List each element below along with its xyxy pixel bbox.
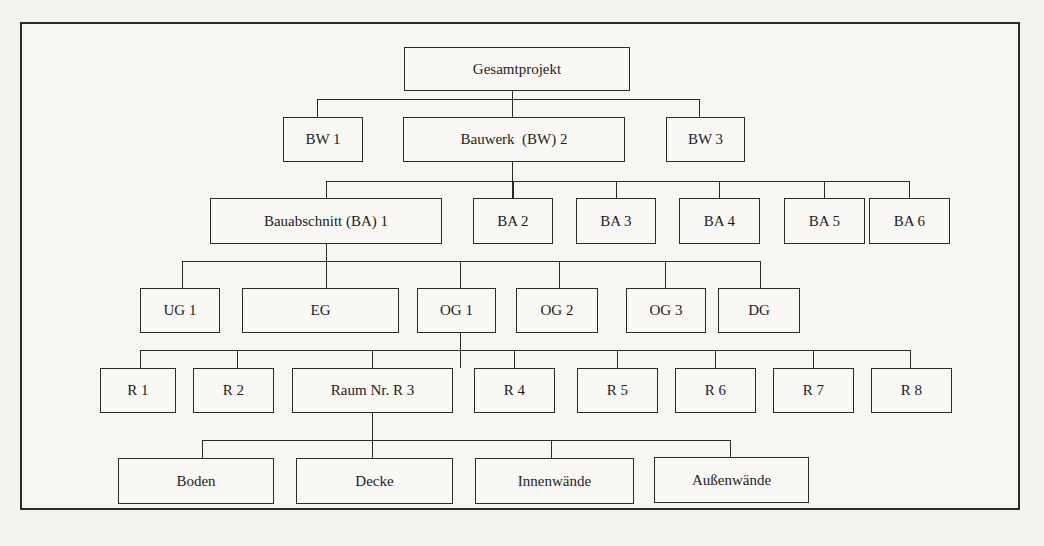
node-og-2: OG 2 — [516, 288, 598, 333]
connector — [372, 413, 373, 458]
connector — [699, 99, 700, 117]
connector — [665, 261, 666, 288]
node-og-3: OG 3 — [626, 288, 706, 333]
node-r-4: R 4 — [474, 368, 555, 413]
node-aussenwaende: Außenwände — [654, 457, 809, 503]
node-bauabschnitt-1: Bauabschnitt (BA) 1 — [210, 198, 442, 244]
connector — [372, 350, 373, 368]
node-r-7: R 7 — [773, 368, 854, 413]
connector — [760, 261, 761, 288]
node-r-5: R 5 — [577, 368, 658, 413]
connector — [202, 440, 731, 441]
node-decke: Decke — [296, 458, 453, 504]
connector — [551, 440, 552, 458]
node-bw-1: BW 1 — [283, 117, 363, 162]
connector — [559, 261, 560, 288]
connector — [202, 440, 203, 458]
node-ba-2: BA 2 — [473, 198, 553, 244]
connector — [317, 99, 318, 117]
node-r-2: R 2 — [193, 368, 274, 413]
node-ug-1: UG 1 — [140, 288, 220, 333]
connector — [513, 181, 514, 198]
connector — [182, 261, 761, 262]
connector — [237, 350, 238, 368]
node-eg: EG — [242, 288, 399, 333]
node-og-1: OG 1 — [417, 288, 496, 333]
node-ba-6: BA 6 — [869, 198, 950, 244]
connector — [182, 261, 183, 288]
node-bw-3: BW 3 — [666, 117, 745, 162]
connector — [730, 440, 731, 458]
connector — [512, 91, 513, 117]
node-innenwaende: Innenwände — [475, 458, 634, 504]
node-dg: DG — [718, 288, 800, 333]
connector — [317, 99, 700, 100]
node-ba-4: BA 4 — [679, 198, 760, 244]
connector — [326, 181, 910, 182]
connector — [715, 350, 716, 368]
connector — [616, 181, 617, 198]
connector — [326, 181, 327, 198]
connector — [617, 350, 618, 368]
diagram-frame — [20, 22, 1020, 510]
node-bauwerk-2: Bauwerk (BW) 2 — [403, 117, 625, 162]
node-r-8: R 8 — [871, 368, 952, 413]
connector — [910, 350, 911, 368]
connector — [326, 244, 327, 288]
connector — [813, 350, 814, 368]
node-ba-5: BA 5 — [784, 198, 865, 244]
connector — [140, 350, 911, 351]
node-raum-r-3: Raum Nr. R 3 — [292, 368, 453, 413]
connector — [514, 350, 515, 368]
node-r-6: R 6 — [675, 368, 756, 413]
connector — [824, 181, 825, 198]
connector — [460, 261, 461, 288]
node-gesamtprojekt: Gesamtprojekt — [404, 47, 630, 91]
node-boden: Boden — [118, 458, 274, 504]
connector — [909, 181, 910, 198]
node-ba-3: BA 3 — [576, 198, 656, 244]
connector — [140, 350, 141, 368]
connector — [719, 181, 720, 198]
node-r-1: R 1 — [100, 368, 176, 413]
